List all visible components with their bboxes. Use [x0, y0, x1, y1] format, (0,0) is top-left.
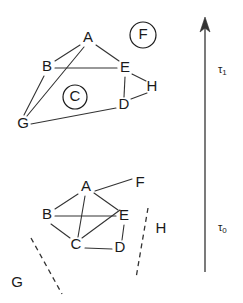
- edge-D-H: [131, 93, 147, 99]
- edge-A-B: [55, 45, 80, 61]
- time-label-tau0: τ0: [218, 221, 227, 235]
- edge-C-D: [85, 248, 112, 249]
- edge-A-F: [95, 179, 132, 191]
- tau1-subscript: 1: [222, 68, 227, 77]
- dashed-right-boundary: [136, 208, 148, 278]
- node-B: B: [42, 205, 52, 222]
- dashed-left-boundary: [31, 238, 62, 294]
- time-label-tau1: τ1: [218, 63, 227, 77]
- edge-A-B: [55, 194, 78, 209]
- graph-tau0-nodes: A F B E C D H G: [11, 173, 166, 290]
- node-C: C: [70, 87, 81, 104]
- edge-A-E: [94, 193, 118, 210]
- edge-D-G: [31, 108, 116, 124]
- node-D: D: [119, 95, 130, 112]
- node-E: E: [119, 206, 129, 223]
- graph-tau1: A B E H D G C F: [17, 22, 157, 131]
- diagram-canvas: A B E H D G C F: [0, 0, 243, 303]
- edge-C-E: [82, 210, 120, 238]
- node-H: H: [147, 77, 158, 94]
- node-E: E: [120, 58, 130, 75]
- node-G: G: [17, 114, 29, 131]
- edge-B-C: [51, 224, 70, 238]
- edge-A-E: [96, 45, 119, 61]
- node-A: A: [83, 28, 93, 45]
- graph-evolution-figure: A B E H D G C F: [0, 0, 243, 303]
- edge-E-H: [132, 74, 146, 81]
- time-axis: τ1 τ0: [200, 17, 227, 272]
- node-F: F: [135, 173, 144, 190]
- edge-B-G: [24, 76, 44, 115]
- node-C: C: [71, 235, 82, 252]
- edge-A-G: [27, 47, 84, 116]
- graph-tau0: A F B E C D H G: [11, 173, 166, 294]
- node-B: B: [42, 57, 52, 74]
- tau0-subscript: 0: [222, 226, 227, 235]
- node-H: H: [156, 219, 167, 236]
- node-F: F: [138, 25, 147, 42]
- node-G: G: [11, 273, 23, 290]
- node-A: A: [81, 177, 91, 194]
- node-D: D: [115, 238, 126, 255]
